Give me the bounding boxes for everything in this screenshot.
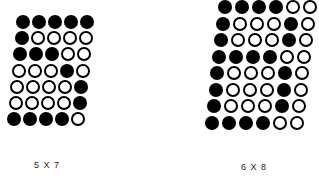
filled-dot <box>13 47 27 61</box>
empty-dot <box>286 0 300 14</box>
filled-dot <box>29 47 43 61</box>
empty-dot <box>258 99 272 113</box>
empty-dot <box>292 99 306 113</box>
empty-dot <box>227 66 241 80</box>
empty-dot <box>290 116 304 130</box>
empty-dot <box>267 17 281 31</box>
filled-dot <box>284 17 298 31</box>
filled-dot <box>269 0 283 14</box>
empty-dot <box>41 96 55 110</box>
empty-dot <box>12 64 26 78</box>
empty-dot <box>299 33 313 47</box>
empty-dot <box>273 116 287 130</box>
empty-dot <box>10 80 24 94</box>
filled-dot <box>209 83 223 97</box>
filled-dot <box>39 112 53 126</box>
filled-dot <box>252 0 266 14</box>
empty-dot <box>295 66 309 80</box>
empty-dot <box>244 66 258 80</box>
empty-dot <box>261 66 275 80</box>
filled-dot <box>278 66 292 80</box>
empty-dot <box>76 64 90 78</box>
filled-dot <box>207 99 221 113</box>
empty-dot <box>42 80 56 94</box>
filled-dot <box>239 116 253 130</box>
empty-dot <box>226 83 240 97</box>
filled-dot <box>74 80 88 94</box>
filled-dot <box>48 15 62 29</box>
empty-dot <box>233 17 247 31</box>
empty-dot <box>26 80 40 94</box>
empty-dot <box>231 33 245 47</box>
filled-dot <box>210 66 224 80</box>
filled-dot <box>16 15 30 29</box>
filled-dot <box>55 112 69 126</box>
empty-dot <box>303 0 317 14</box>
filled-dot <box>216 17 230 31</box>
filled-dot <box>73 96 87 110</box>
empty-dot <box>294 83 308 97</box>
empty-dot <box>260 83 274 97</box>
empty-dot <box>25 96 39 110</box>
empty-dot <box>77 47 91 61</box>
filled-dot <box>15 31 29 45</box>
filled-dot <box>246 50 260 64</box>
empty-dot <box>250 17 264 31</box>
empty-dot <box>31 31 45 45</box>
filled-dot <box>32 15 46 29</box>
empty-dot <box>44 64 58 78</box>
empty-dot <box>71 112 85 126</box>
filled-dot <box>7 112 21 126</box>
filled-dot <box>263 50 277 64</box>
filled-dot <box>256 116 270 130</box>
empty-dot <box>79 31 93 45</box>
filled-dot <box>235 0 249 14</box>
empty-dot <box>224 99 238 113</box>
empty-dot <box>61 47 75 61</box>
empty-dot <box>297 50 311 64</box>
filled-dot <box>282 33 296 47</box>
filled-dot <box>214 33 228 47</box>
filled-dot <box>212 50 226 64</box>
empty-dot <box>47 31 61 45</box>
empty-dot <box>248 33 262 47</box>
empty-dot <box>63 31 77 45</box>
label-6x8: 6 X 8 <box>241 162 267 172</box>
label-5x7: 5 X 7 <box>34 160 60 170</box>
filled-dot <box>205 116 219 130</box>
filled-dot <box>23 112 37 126</box>
filled-dot <box>277 83 291 97</box>
empty-dot <box>243 83 257 97</box>
empty-dot <box>9 96 23 110</box>
filled-dot <box>222 116 236 130</box>
filled-dot <box>64 15 78 29</box>
empty-dot <box>265 33 279 47</box>
empty-dot <box>241 99 255 113</box>
filled-dot <box>80 15 94 29</box>
filled-dot <box>229 50 243 64</box>
empty-dot <box>301 17 315 31</box>
filled-dot <box>275 99 289 113</box>
filled-dot <box>45 47 59 61</box>
empty-dot <box>57 96 71 110</box>
filled-dot <box>218 0 232 14</box>
empty-dot <box>280 50 294 64</box>
filled-dot <box>60 64 74 78</box>
empty-dot <box>28 64 42 78</box>
empty-dot <box>58 80 72 94</box>
